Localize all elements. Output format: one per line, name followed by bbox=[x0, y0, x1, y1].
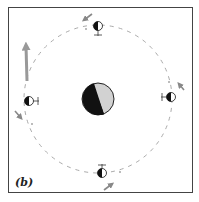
motion-arrow-left bbox=[15, 111, 21, 118]
motion-arrow-bottom bbox=[104, 184, 112, 190]
large-up-arrow bbox=[26, 46, 27, 81]
satellite-bottom bbox=[98, 164, 107, 178]
orbit-diagram bbox=[0, 0, 199, 202]
satellite-top bbox=[94, 22, 103, 37]
motion-arrow-top bbox=[84, 14, 92, 20]
satellite-left bbox=[25, 97, 40, 106]
satellite-right bbox=[161, 93, 176, 102]
motion-arrow-right bbox=[179, 84, 184, 90]
panel-label: (b) bbox=[15, 176, 33, 189]
central-body bbox=[82, 83, 114, 115]
